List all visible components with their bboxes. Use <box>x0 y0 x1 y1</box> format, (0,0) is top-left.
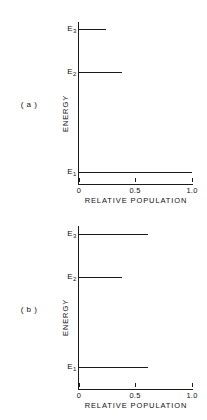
panel-a-x-tick-10 <box>192 178 193 182</box>
panel-b-level-sub-e3: 3 <box>73 233 76 239</box>
panel-b-y-axis <box>78 226 79 390</box>
panel-b-x-ticklabel-10: 1.0 <box>179 391 205 400</box>
panel-b-y-axis-title: ENERGY <box>61 299 70 336</box>
panel-a-y-axis-title: ENERGY <box>61 95 70 132</box>
panel-b-level-label-e1: E1 <box>56 362 76 371</box>
panel-a-level-sub-e2: 2 <box>73 71 76 77</box>
panel-b-x-ticklabel-05: 0.5 <box>122 391 148 400</box>
panel-a-x-ticklabel-0: 0 <box>66 186 92 195</box>
panel-b-level-bar-e3 <box>79 234 148 235</box>
panel-b: ( b ) 0 0.5 1.0 RELATIVE POPULATION ENER… <box>0 210 207 420</box>
panel-a-level-sub-e1: 1 <box>73 171 76 177</box>
panel-a-x-axis <box>79 184 193 185</box>
panel-b-x-tick-10 <box>192 383 193 387</box>
panel-a-plot-area: 0 0.5 1.0 RELATIVE POPULATION ENERGY E3 … <box>0 0 207 210</box>
panel-a-level-label-e1: E1 <box>56 167 76 176</box>
panel-b-level-label-e3: E3 <box>56 229 76 238</box>
panel-b-x-axis <box>79 389 193 390</box>
panel-a-level-bar-e2 <box>79 72 122 73</box>
panel-a: ( a ) 0 0.5 1.0 RELATIVE POPULATION ENER… <box>0 0 207 210</box>
panel-a-level-bar-e3 <box>79 29 106 30</box>
panel-a-level-label-e2: E2 <box>56 67 76 76</box>
panel-a-level-sub-e3: 3 <box>73 28 76 34</box>
energy-level-population-figure: ( a ) 0 0.5 1.0 RELATIVE POPULATION ENER… <box>0 0 207 420</box>
panel-a-level-label-e3: E3 <box>56 24 76 33</box>
panel-a-y-axis <box>78 22 79 185</box>
panel-a-level-bar-e1 <box>79 172 192 173</box>
panel-b-level-bar-e1 <box>79 367 148 368</box>
panel-b-level-sub-e2: 2 <box>73 276 76 282</box>
panel-a-x-axis-title: RELATIVE POPULATION <box>62 196 207 205</box>
panel-b-level-sub-e1: 1 <box>73 366 76 372</box>
panel-b-x-tick-0 <box>79 383 80 387</box>
panel-a-x-tick-05 <box>135 178 136 182</box>
panel-b-x-ticklabel-0: 0 <box>66 391 92 400</box>
panel-a-x-tick-0 <box>79 178 80 182</box>
panel-b-x-tick-05 <box>135 383 136 387</box>
panel-a-x-ticklabel-05: 0.5 <box>122 186 148 195</box>
panel-a-x-ticklabel-10: 1.0 <box>179 186 205 195</box>
panel-b-level-bar-e2 <box>79 277 122 278</box>
panel-b-level-label-e2: E2 <box>56 272 76 281</box>
panel-b-plot-area: 0 0.5 1.0 RELATIVE POPULATION ENERGY E3 … <box>0 210 207 420</box>
panel-b-x-axis-title: RELATIVE POPULATION <box>62 401 207 410</box>
